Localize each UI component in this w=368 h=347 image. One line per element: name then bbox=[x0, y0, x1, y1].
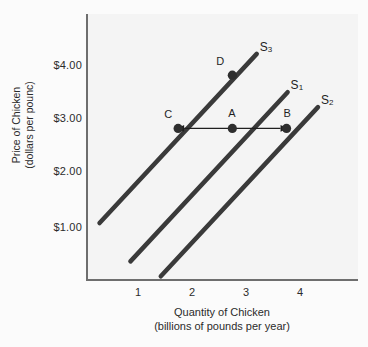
data-point-b bbox=[282, 124, 291, 133]
curve-label-s2-text: S bbox=[321, 93, 329, 107]
data-point-d bbox=[228, 71, 237, 80]
data-point-a bbox=[228, 124, 237, 133]
point-label-b: B bbox=[284, 107, 291, 119]
point-label-a: A bbox=[228, 107, 235, 119]
curve-label-s3-sub: 3 bbox=[268, 45, 272, 54]
supply-curve-chart: $4.00 $3.00 $2.00 $1.00 1 2 3 4 Price of… bbox=[0, 0, 368, 347]
curve-label-s2-sub: 2 bbox=[329, 98, 333, 107]
point-label-c: C bbox=[164, 108, 172, 120]
supply-curve-s1 bbox=[130, 92, 287, 261]
curve-label-s3-text: S bbox=[260, 40, 268, 54]
curve-label-s1-sub: 1 bbox=[299, 83, 303, 92]
point-label-d: D bbox=[216, 55, 224, 67]
data-point-c bbox=[174, 124, 183, 133]
curve-label-s3: S3 bbox=[260, 40, 272, 54]
chart-graphics bbox=[0, 0, 368, 347]
curve-label-s1: S1 bbox=[291, 78, 303, 92]
curve-label-s1-text: S bbox=[291, 78, 299, 92]
curve-label-s2: S2 bbox=[321, 93, 333, 107]
